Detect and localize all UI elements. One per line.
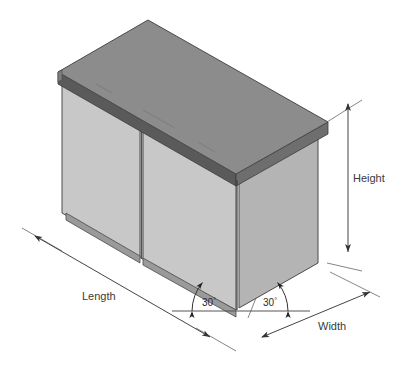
drawing-canvas: Height Length Width 30°	[0, 0, 399, 367]
angle-right-value: 30	[263, 297, 275, 308]
angle-left-value: 30	[202, 297, 214, 308]
width-label: Width	[318, 320, 346, 332]
countertop-back-riser	[58, 70, 62, 82]
length-label: Length	[82, 290, 116, 302]
width-dimension-line	[262, 292, 370, 337]
angle-arc-right	[278, 283, 289, 312]
angle-left-degree-symbol: °	[213, 297, 216, 304]
length-extension-line-right	[196, 328, 236, 351]
width-extension-line-far	[330, 272, 380, 297]
height-extension-line-top	[327, 100, 362, 122]
height-extension-line-bottom	[327, 263, 362, 271]
height-label: Height	[353, 172, 385, 184]
isometric-dimension-drawing: Height Length Width 30°	[0, 0, 399, 367]
angle-label-left-30: 30°	[202, 297, 216, 309]
angle-right-degree-symbol: °	[274, 297, 277, 304]
angle-label-right-30: 30°	[263, 297, 277, 309]
dimension-height: Height	[327, 100, 385, 271]
